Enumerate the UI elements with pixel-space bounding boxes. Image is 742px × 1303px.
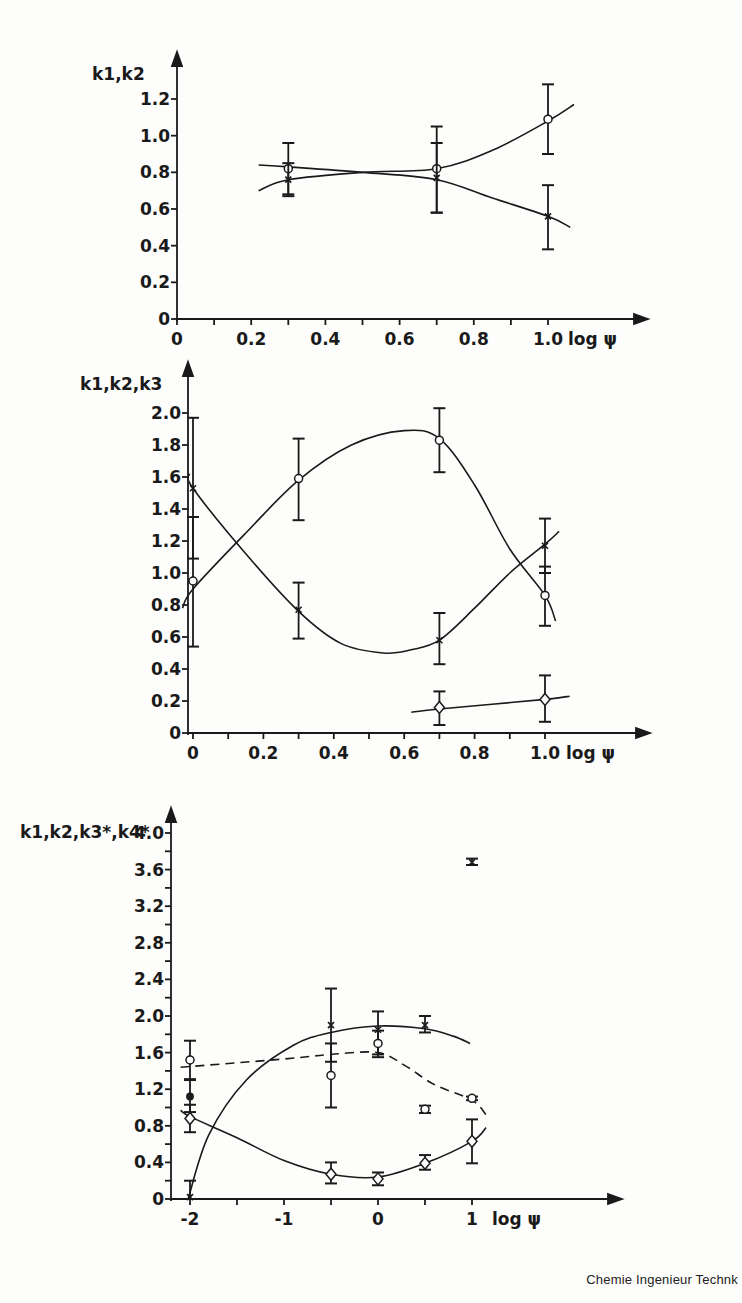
fit-curve-k2: [188, 474, 559, 653]
y-tick-label: 2.4: [134, 969, 164, 989]
y-tick-label: 1.2: [134, 1079, 164, 1099]
y-tick-label: 1.6: [134, 1043, 164, 1063]
x-tick-label: -2: [181, 1209, 200, 1229]
y-tick-label: 2.8: [134, 933, 164, 953]
circle-marker-icon: [374, 1039, 382, 1047]
chart-1: 00.20.40.60.81.000.20.40.60.81.01.2log ψ…: [92, 52, 648, 349]
y-tick-label: 0.6: [151, 627, 181, 647]
y-tick-label: 0.8: [151, 595, 181, 615]
x-tick-label: 1.0: [530, 743, 560, 763]
x-tick-label: 0.2: [248, 743, 278, 763]
y-tick-label: 0.4: [151, 659, 181, 679]
x-tick-label: 0.4: [310, 329, 340, 349]
fit-curve-k1: [182, 430, 555, 621]
diamond-marker-icon: [467, 1135, 477, 1147]
circle-marker-icon: [468, 1094, 476, 1102]
y-tick-label: 0: [158, 309, 170, 329]
x-axis-label: log ψ: [568, 329, 617, 349]
x-tick-label: 0.4: [319, 743, 349, 763]
y-tick-label: 1.2: [140, 89, 170, 109]
y-tick-label: 1.0: [140, 126, 170, 146]
circle-marker-icon: [541, 591, 549, 599]
y-tick-label: 2.0: [151, 403, 181, 423]
chart-3: -2-10100.40.81.21.62.02.42.83.23.64.0log…: [20, 808, 622, 1229]
journal-credit: Chemie Ingenieur Technk: [586, 1272, 738, 1287]
y-tick-label: 2.0: [134, 1006, 164, 1026]
y-tick-label: 3.2: [134, 896, 164, 916]
diamond-marker-icon: [434, 701, 444, 713]
x-axis-arrow-icon: [634, 314, 648, 324]
diamond-marker-icon: [326, 1168, 336, 1180]
fit-curve-k2: [259, 165, 571, 227]
x-axis-arrow-icon: [608, 1194, 622, 1204]
x-tick-label: 0.8: [459, 329, 489, 349]
circle-marker-icon: [295, 475, 303, 483]
x-tick-label: 1: [466, 1209, 478, 1229]
circle-marker-icon: [544, 115, 552, 123]
diamond-marker-icon: [373, 1173, 383, 1185]
y-axis-label: k1,k2,k3*,k4*: [20, 822, 150, 842]
y-axis-arrow-icon: [166, 808, 176, 822]
y-tick-label: 0.2: [151, 691, 181, 711]
figure-canvas: 00.20.40.60.81.000.20.40.60.81.01.2log ψ…: [0, 0, 742, 1303]
y-tick-label: 0.6: [140, 199, 170, 219]
x-axis-label: log ψ: [566, 743, 615, 763]
y-axis-arrow-icon: [172, 52, 182, 66]
y-tick-label: 1.2: [151, 531, 181, 551]
x-tick-label: 0: [171, 329, 183, 349]
y-axis-arrow-icon: [183, 362, 193, 376]
y-tick-label: 3.6: [134, 860, 164, 880]
y-tick-label: 0.4: [134, 1152, 164, 1172]
circle-marker-icon: [189, 577, 197, 585]
asterisk-marker-icon: [187, 1094, 193, 1100]
circle-marker-icon: [421, 1105, 429, 1113]
fit-curve-k4*: [181, 1110, 487, 1178]
diamond-marker-icon: [420, 1157, 430, 1169]
circle-marker-icon: [327, 1071, 335, 1079]
y-tick-label: 0.8: [134, 1116, 164, 1136]
y-tick-label: 1.0: [151, 563, 181, 583]
x-tick-label: 1.0: [533, 329, 563, 349]
x-tick-label: 0: [372, 1209, 384, 1229]
y-tick-label: 0: [152, 1189, 164, 1209]
x-tick-label: 0.6: [389, 743, 419, 763]
y-tick-label: 0.4: [140, 236, 170, 256]
x-tick-label: 0.8: [460, 743, 490, 763]
y-tick-label: 0.8: [140, 162, 170, 182]
circle-marker-icon: [435, 436, 443, 444]
x-axis-label: log ψ: [492, 1209, 541, 1229]
y-tick-label: 0.2: [140, 272, 170, 292]
y-tick-label: 1.6: [151, 467, 181, 487]
x-tick-label: 0: [187, 743, 199, 763]
y-tick-label: 1.8: [151, 435, 181, 455]
x-tick-label: 0.2: [236, 329, 266, 349]
x-tick-label: -1: [275, 1209, 294, 1229]
y-tick-label: 1.4: [151, 499, 181, 519]
x-tick-label: 0.6: [385, 329, 415, 349]
y-axis-label: k1,k2: [92, 64, 145, 84]
circle-marker-icon: [186, 1056, 194, 1064]
fit-curve-k1: [259, 105, 574, 191]
y-axis-label: k1,k2,k3: [80, 374, 162, 394]
chart-2: 00.20.40.60.81.000.20.40.60.81.01.21.41.…: [80, 362, 650, 763]
diamond-marker-icon: [540, 693, 550, 705]
y-tick-label: 0: [169, 723, 181, 743]
x-axis-arrow-icon: [636, 728, 650, 738]
